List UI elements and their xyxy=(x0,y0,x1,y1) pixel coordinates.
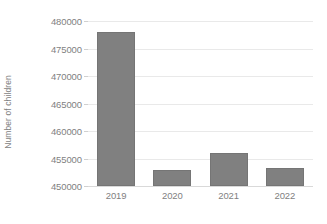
x-axis-tick-label: 2019 xyxy=(106,190,127,201)
plot-area xyxy=(88,21,313,186)
bar-chart-figure: Number of children 450000455000460000465… xyxy=(0,0,327,224)
y-axis-tick-label: 450000 xyxy=(51,181,82,192)
x-axis-tick-label: 2021 xyxy=(218,190,239,201)
bar-2021[interactable] xyxy=(210,153,248,186)
y-axis-tick-labels: 4500004550004600004650004700004750004800… xyxy=(22,21,82,186)
y-axis-tick-label: 465000 xyxy=(51,98,82,109)
bar-slot xyxy=(88,21,144,186)
y-axis-tick-mark xyxy=(84,49,88,50)
bar-slot xyxy=(257,21,313,186)
y-axis-tick-label: 475000 xyxy=(51,43,82,54)
bar-2020[interactable] xyxy=(153,170,191,187)
y-axis-tick-mark xyxy=(84,21,88,22)
x-axis-tick-labels: 2019202020212022 xyxy=(88,190,313,210)
y-axis-tick-mark xyxy=(84,104,88,105)
y-axis-tick-label: 480000 xyxy=(51,16,82,27)
y-axis-tick-mark xyxy=(84,76,88,77)
y-axis-tick-label: 455000 xyxy=(51,153,82,164)
x-axis-tick-label: 2022 xyxy=(275,190,296,201)
bars-layer xyxy=(88,21,313,186)
bar-2019[interactable] xyxy=(97,32,135,186)
y-axis-title: Number of children xyxy=(0,0,16,224)
y-axis-tick-mark xyxy=(84,131,88,132)
bar-slot xyxy=(201,21,257,186)
y-axis-tick-label: 460000 xyxy=(51,126,82,137)
y-axis-tick-mark xyxy=(84,159,88,160)
bar-2022[interactable] xyxy=(266,168,304,186)
y-axis-tick-label: 470000 xyxy=(51,71,82,82)
x-axis-tick-label: 2020 xyxy=(162,190,183,201)
y-axis-tick-mark xyxy=(84,186,88,187)
gridline xyxy=(88,186,313,187)
bar-slot xyxy=(144,21,200,186)
